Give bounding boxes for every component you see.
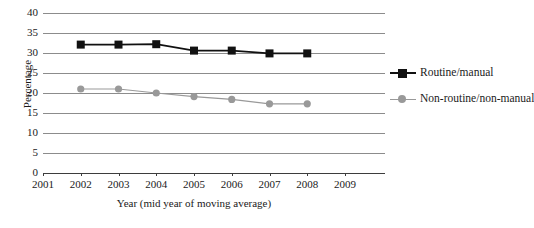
chart-legend: Routine/manual Non-routine/non-manual (390, 63, 528, 115)
x-axis-tick-mark (270, 173, 271, 176)
x-axis-tick-mark (194, 173, 195, 176)
data-point-square-icon (303, 49, 311, 57)
legend-label: Non-routine/non-manual (420, 92, 534, 105)
data-point-circle-icon (77, 85, 84, 92)
x-axis-tick-mark (119, 173, 120, 176)
data-point-circle-icon (190, 93, 197, 100)
legend-label: Routine/manual (420, 66, 493, 79)
x-axis-tick-mark (232, 173, 233, 176)
legend-item-non-routine-non-manual[interactable]: Non-routine/non-manual (390, 89, 528, 108)
x-axis-tick-mark (156, 173, 157, 176)
y-axis-tick-label: 40 (10, 7, 38, 18)
x-axis-tick-mark (81, 173, 82, 176)
x-axis-title: Year (mid year of moving average) (43, 197, 345, 210)
data-point-circle-icon (153, 89, 160, 96)
data-point-circle-icon (266, 100, 273, 107)
x-axis-tick-label: 2009 (322, 178, 368, 190)
data-point-square-icon (152, 40, 160, 48)
data-point-square-icon (115, 41, 123, 49)
y-axis-title: Percentage (21, 29, 33, 139)
plot-area (43, 13, 385, 173)
legend-swatch-square-icon (390, 67, 416, 79)
x-axis-tick-mark (43, 173, 44, 176)
x-axis-tick-mark (345, 173, 346, 176)
x-axis-tick-mark (307, 173, 308, 176)
data-point-square-icon (190, 47, 198, 55)
data-point-square-icon (228, 47, 236, 55)
data-point-circle-icon (304, 100, 311, 107)
data-point-square-icon (77, 41, 85, 49)
legend-swatch-circle-icon (390, 93, 416, 105)
data-point-circle-icon (115, 85, 122, 92)
series-layer (43, 13, 385, 173)
data-point-circle-icon (228, 96, 235, 103)
legend-item-routine-manual[interactable]: Routine/manual (390, 63, 528, 82)
y-axis-tick-label: 5 (10, 147, 38, 158)
data-point-square-icon (266, 49, 274, 57)
y-axis-tick-label: 0 (10, 167, 38, 178)
